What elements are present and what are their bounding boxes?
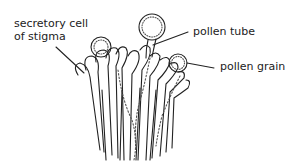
leader-secretory-cell <box>56 47 84 73</box>
label-pollen-grain: pollen grain <box>220 60 285 73</box>
pollen-grain-center <box>139 14 165 40</box>
leader-pollen-grain <box>187 63 214 68</box>
label-secretory-cell-line2: of stigma <box>14 30 66 43</box>
label-pollen-tube: pollen tube <box>193 25 255 38</box>
label-secretory-cell-line1: secretory cell <box>14 17 88 30</box>
